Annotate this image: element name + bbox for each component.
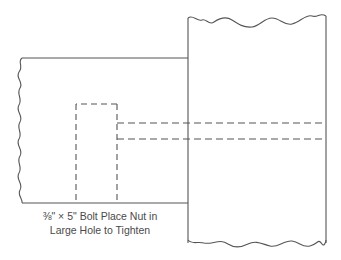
- post: [188, 15, 326, 247]
- large-hole: [76, 104, 117, 203]
- beam: [18, 58, 188, 203]
- post-bottom-break-line: [188, 240, 326, 247]
- caption-line-2: Large Hole to Tighten: [20, 223, 180, 237]
- beam-break-line: [18, 58, 22, 203]
- post-top-break-line: [188, 15, 326, 28]
- bolt: [117, 123, 326, 139]
- bolt-caption: ⅜" × 5" Bolt Place Nut in Large Hole to …: [20, 209, 180, 237]
- caption-line-1: ⅜" × 5" Bolt Place Nut in: [20, 209, 180, 223]
